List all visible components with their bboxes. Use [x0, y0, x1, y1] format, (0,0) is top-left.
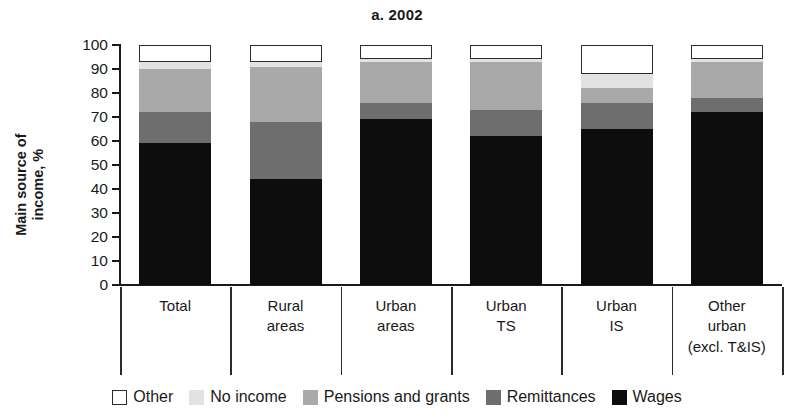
legend-swatch-icon [112, 390, 127, 405]
bar-segment-wages[interactable] [581, 129, 653, 285]
x-axis-category-label-line: Rural [230, 296, 340, 316]
bar-group[interactable] [470, 45, 542, 285]
bar-segment-pensions-and-grants[interactable] [581, 88, 653, 102]
x-axis-category-label: Ruralareas [230, 296, 340, 337]
x-axis-category-label: UrbanTS [451, 296, 561, 337]
legend-swatch-icon [486, 390, 501, 405]
chart-legend: OtherNo incomePensions and grantsRemitta… [0, 388, 794, 406]
legend-item[interactable]: No income [189, 388, 286, 406]
x-axis-category-label-line: IS [561, 316, 671, 336]
y-axis-tick [112, 260, 120, 262]
bar-segment-remittances[interactable] [691, 98, 763, 112]
bar-segment-other[interactable] [250, 45, 322, 62]
y-axis-tick-label: 60 [62, 133, 108, 149]
y-axis-tick [112, 236, 120, 238]
bar-segment-other[interactable] [360, 45, 432, 59]
legend-label: Pensions and grants [324, 388, 470, 406]
bar-segment-pensions-and-grants[interactable] [360, 62, 432, 103]
legend-swatch-icon [189, 390, 204, 405]
legend-label: No income [210, 388, 286, 406]
bar-segment-other[interactable] [139, 45, 211, 62]
bar-segment-no-income[interactable] [581, 74, 653, 88]
x-axis-category-label: Total [120, 296, 230, 316]
legend-label: Wages [633, 388, 682, 406]
bar-segment-wages[interactable] [139, 143, 211, 285]
y-axis-tick-label: 70 [62, 109, 108, 125]
bar-segment-other[interactable] [691, 45, 763, 59]
legend-swatch-icon [612, 390, 627, 405]
y-axis-tick [112, 140, 120, 142]
bar-segment-wages[interactable] [250, 179, 322, 285]
y-axis-tick [112, 188, 120, 190]
bar-group[interactable] [250, 45, 322, 285]
bar-group[interactable] [691, 45, 763, 285]
bar-segment-other[interactable] [581, 45, 653, 74]
bar-segment-wages[interactable] [691, 112, 763, 285]
y-axis-tick [112, 284, 120, 286]
y-axis-tick [112, 164, 120, 166]
y-axis-tick [112, 212, 120, 214]
legend-item[interactable]: Other [112, 388, 173, 406]
y-axis-title-line1: Main source of [13, 134, 30, 236]
y-axis-title: Main source of income, % [2, 100, 58, 270]
legend-label: Other [133, 388, 173, 406]
legend-item[interactable]: Remittances [486, 388, 596, 406]
bar-segment-remittances[interactable] [360, 103, 432, 120]
bar-segment-pensions-and-grants[interactable] [691, 62, 763, 98]
legend-item[interactable]: Wages [612, 388, 682, 406]
x-axis-category-label-line: Urban [561, 296, 671, 316]
x-axis-category-label-line: Other [672, 296, 782, 316]
y-axis-tick-label: 90 [62, 61, 108, 77]
y-axis-tick-label: 80 [62, 85, 108, 101]
x-axis-category-label-line: areas [341, 316, 451, 336]
bar-segment-wages[interactable] [470, 136, 542, 285]
x-axis-category-label: UrbanIS [561, 296, 671, 337]
y-axis-tick-label: 50 [62, 157, 108, 173]
bar-group[interactable] [360, 45, 432, 285]
y-axis-tick [112, 68, 120, 70]
bar-segment-pensions-and-grants[interactable] [470, 62, 542, 110]
x-axis-category-label: Otherurban(excl. T&IS) [672, 296, 782, 357]
bar-segment-remittances[interactable] [470, 110, 542, 136]
y-axis-tick [112, 44, 120, 46]
y-axis-tick-label: 10 [62, 253, 108, 269]
y-axis-tick-label: 100 [62, 37, 108, 53]
x-axis-category-label-line: Urban [341, 296, 451, 316]
bar-segment-remittances[interactable] [139, 112, 211, 143]
bar-segment-remittances[interactable] [581, 103, 653, 129]
y-axis-tick [112, 92, 120, 94]
bar-segment-pensions-and-grants[interactable] [139, 69, 211, 112]
y-axis-tick-label: 20 [62, 229, 108, 245]
legend-item[interactable]: Pensions and grants [303, 388, 470, 406]
y-axis-tick-label: 30 [62, 205, 108, 221]
category-separator [782, 287, 784, 375]
chart-title: a. 2002 [0, 6, 794, 23]
x-axis-category-label-line: TS [451, 316, 561, 336]
x-axis-category-label-line: urban [672, 316, 782, 336]
x-axis-category-label-line: Urban [451, 296, 561, 316]
y-axis-tick-label: 40 [62, 181, 108, 197]
bar-segment-pensions-and-grants[interactable] [250, 67, 322, 122]
plot-area [120, 45, 782, 285]
y-axis-tick [112, 116, 120, 118]
x-axis-category-label-line: areas [230, 316, 340, 336]
x-axis-category-label-line: Total [120, 296, 230, 316]
bar-segment-other[interactable] [470, 45, 542, 59]
legend-label: Remittances [507, 388, 596, 406]
y-axis-title-line2: income, % [30, 134, 47, 236]
x-axis-category-label-line: (excl. T&IS) [672, 337, 782, 357]
bar-segment-no-income[interactable] [139, 62, 211, 69]
legend-swatch-icon [303, 390, 318, 405]
y-axis-tick-label: 0 [62, 277, 108, 293]
x-axis-category-label: Urbanareas [341, 296, 451, 337]
bar-segment-wages[interactable] [360, 119, 432, 285]
bar-group[interactable] [581, 45, 653, 285]
bar-group[interactable] [139, 45, 211, 285]
bar-segment-remittances[interactable] [250, 122, 322, 180]
